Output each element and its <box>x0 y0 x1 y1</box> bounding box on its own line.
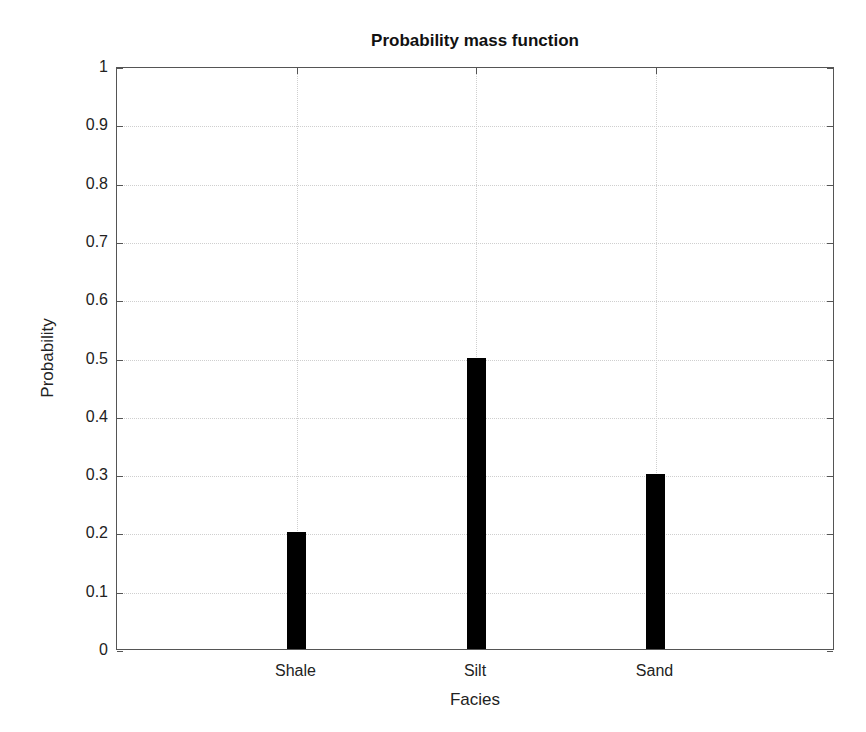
y-tick-label: 0.2 <box>86 524 108 542</box>
h-gridline <box>117 301 833 302</box>
y-tick-label: 0.5 <box>86 350 108 368</box>
y-tick-right <box>827 534 833 535</box>
x-tick-label: Shale <box>275 662 316 680</box>
y-tick-right <box>827 593 833 594</box>
chart-title: Probability mass function <box>116 31 834 51</box>
y-axis-title: Probability <box>38 318 58 397</box>
y-tick <box>117 593 123 594</box>
y-tick-right <box>827 243 833 244</box>
x-tick-label: Silt <box>464 662 486 680</box>
x-tick-label: Sand <box>636 662 673 680</box>
x-tick-top <box>476 68 477 74</box>
y-tick <box>117 651 123 652</box>
y-tick-label: 0.7 <box>86 233 108 251</box>
h-gridline <box>117 185 833 186</box>
y-tick-right <box>827 185 833 186</box>
y-tick-label: 0.6 <box>86 291 108 309</box>
y-tick-label: 1 <box>99 58 108 76</box>
bar-sand <box>646 474 665 649</box>
y-tick-right <box>827 360 833 361</box>
y-tick <box>117 360 123 361</box>
y-tick <box>117 418 123 419</box>
y-tick <box>117 534 123 535</box>
y-tick <box>117 243 123 244</box>
y-tick-right <box>827 68 833 69</box>
y-tick-label: 0.3 <box>86 466 108 484</box>
y-tick <box>117 68 123 69</box>
y-tick <box>117 301 123 302</box>
y-tick-right <box>827 126 833 127</box>
x-tick-top <box>656 68 657 74</box>
y-tick <box>117 185 123 186</box>
y-tick-label: 0.9 <box>86 116 108 134</box>
bar-shale <box>287 532 306 649</box>
y-tick-label: 0 <box>99 641 108 659</box>
h-gridline <box>117 126 833 127</box>
y-tick <box>117 476 123 477</box>
bar-silt <box>467 358 486 650</box>
y-tick-label: 0.8 <box>86 175 108 193</box>
y-tick-right <box>827 301 833 302</box>
h-gridline <box>117 243 833 244</box>
y-tick <box>117 126 123 127</box>
x-tick-top <box>297 68 298 74</box>
y-tick-label: 0.1 <box>86 583 108 601</box>
plot-area <box>116 67 834 650</box>
y-tick-label: 0.4 <box>86 408 108 426</box>
y-tick-right <box>827 651 833 652</box>
y-tick-right <box>827 418 833 419</box>
x-axis-title: Facies <box>116 690 834 710</box>
y-tick-right <box>827 476 833 477</box>
